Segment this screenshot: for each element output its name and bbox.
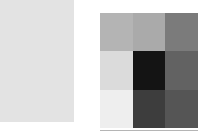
heatmap-cell: [165, 51, 198, 89]
heatmap-cell: [100, 90, 133, 128]
heatmap-cell: [165, 13, 198, 51]
uniform-gray-panel: [0, 0, 74, 122]
heatmap-cell: [133, 51, 166, 89]
horizontal-rule: [100, 130, 198, 131]
heatmap-cell: [133, 13, 166, 51]
screenshot-canvas: [0, 0, 205, 135]
heatmap-cell: [165, 90, 198, 128]
grayscale-grid-panel: [100, 13, 198, 128]
heatmap-cell: [133, 90, 166, 128]
heatmap-cell: [100, 13, 133, 51]
heatmap-cell: [100, 51, 133, 89]
